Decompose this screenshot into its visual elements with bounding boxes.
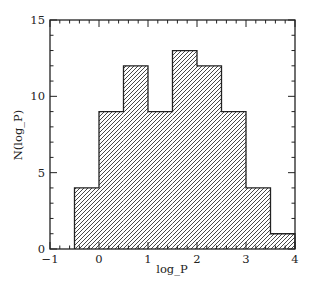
y-tick-labels: 051015	[30, 13, 45, 256]
x-tick-label: 2	[193, 252, 200, 266]
y-tick-label: 5	[38, 166, 45, 180]
y-tick-label: 0	[38, 242, 45, 256]
histogram-bar	[99, 112, 124, 249]
histogram-bar	[148, 112, 173, 249]
histogram-chart: −101234 051015 log_P N(log_P)	[0, 0, 312, 285]
y-axis-label: N(log_P)	[11, 110, 25, 161]
y-tick-label: 10	[30, 89, 45, 103]
histogram-bars	[75, 51, 296, 249]
x-tick-label: 1	[144, 252, 151, 266]
histogram-bar	[246, 188, 271, 249]
histogram-bar	[271, 234, 296, 249]
histogram-bar	[222, 112, 247, 249]
histogram-bar	[75, 188, 100, 249]
x-tick-label: 0	[95, 252, 102, 266]
x-tick-label: 4	[291, 252, 298, 266]
x-axis-label: log_P	[156, 262, 188, 276]
histogram-bar	[124, 66, 149, 249]
histogram-bar	[197, 66, 222, 249]
y-tick-label: 15	[30, 13, 45, 27]
x-tick-label: 3	[242, 252, 249, 266]
histogram-bar	[173, 51, 198, 249]
